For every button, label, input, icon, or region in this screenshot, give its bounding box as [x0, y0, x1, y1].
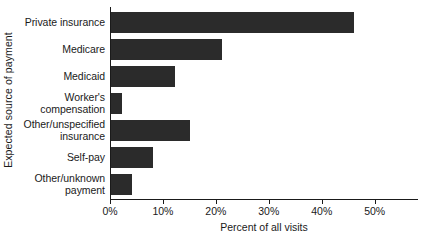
category-label: Other/unknownpayment: [13, 173, 105, 196]
bar: [111, 12, 354, 34]
category-label-line: Private insurance: [13, 17, 105, 28]
x-tick-mark: [322, 200, 323, 204]
x-tick-label: 30%: [258, 205, 279, 217]
x-tick-label: 20%: [205, 205, 226, 217]
category-tick-labels: Private insuranceMedicareMedicaidWorker'…: [16, 9, 108, 198]
x-axis-title: Percent of all visits: [110, 221, 418, 233]
x-tick-label: 50%: [364, 205, 385, 217]
x-tick-mark: [375, 200, 376, 204]
bar-series: [111, 9, 418, 198]
category-label-line: Medicare: [13, 44, 105, 55]
x-tick-label: 40%: [311, 205, 332, 217]
category-label: Private insurance: [13, 17, 105, 28]
x-tick-label: 0%: [102, 205, 117, 217]
bar: [111, 147, 153, 169]
category-label-line: Other/unspecified: [13, 119, 105, 130]
category-label: Other/unspecifiedinsurance: [13, 119, 105, 142]
bar: [111, 93, 122, 115]
category-label-line: Worker's: [13, 92, 105, 103]
category-label-line: compensation: [13, 104, 105, 115]
x-tick-mark: [163, 200, 164, 204]
plot-area: [110, 7, 418, 199]
category-label-line: insurance: [13, 131, 105, 142]
category-label-line: Other/unknown: [13, 173, 105, 184]
category-label-line: Medicaid: [13, 71, 105, 82]
bar: [111, 66, 175, 88]
x-tick-mark: [110, 200, 111, 204]
category-label-line: Self-pay: [13, 152, 105, 163]
category-label: Self-pay: [13, 152, 105, 163]
x-tick-label: 10%: [152, 205, 173, 217]
x-tick-mark: [216, 200, 217, 204]
category-label: Medicaid: [13, 71, 105, 82]
x-tick-mark: [269, 200, 270, 204]
bar: [111, 174, 132, 196]
x-axis-ticks: 0%10%20%30%40%50%: [110, 200, 418, 220]
bar: [111, 120, 190, 142]
category-label-line: payment: [13, 185, 105, 196]
category-label: Medicare: [13, 44, 105, 55]
bar: [111, 39, 222, 61]
category-label: Worker'scompensation: [13, 92, 105, 115]
bar-chart-figure: Expected source of payment Private insur…: [0, 0, 423, 242]
